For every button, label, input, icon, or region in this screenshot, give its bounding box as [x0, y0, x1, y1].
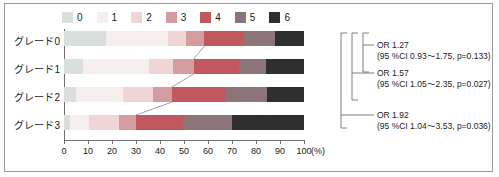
legend-item: 1 — [97, 12, 118, 23]
bar-segment — [149, 59, 173, 74]
legend-swatch-icon — [269, 12, 280, 23]
bar-segment — [194, 59, 240, 74]
bar-segment — [267, 87, 304, 102]
odds-ratio-annotation: OR 1.92(95 %CI 1.04〜3.53, p=0.036) — [377, 110, 491, 132]
x-axis-tick-label: 30 — [131, 146, 141, 156]
x-axis-tick-label: 100 — [296, 146, 311, 156]
x-axis-tick-label: 20 — [107, 146, 117, 156]
x-axis-tick-label: 70 — [227, 146, 237, 156]
x-axis-tick — [136, 141, 137, 144]
confidence-interval-value: (95 %CI 0.93〜1.75, p=0.133) — [377, 51, 491, 62]
legend-item: 0 — [62, 12, 83, 23]
bar-segment — [70, 115, 89, 130]
legend-swatch-icon — [131, 12, 142, 23]
category-label: グレード1 — [2, 61, 60, 76]
odds-ratio-value: OR 1.57 — [377, 68, 491, 79]
bar-segment — [76, 87, 123, 102]
bar-segment — [64, 87, 76, 102]
bar-segment — [173, 59, 193, 74]
legend-item: 6 — [269, 12, 290, 23]
category-label: グレード2 — [2, 89, 60, 104]
bar-segment — [232, 115, 304, 130]
legend-item: 5 — [235, 12, 256, 23]
bar-segment — [64, 31, 106, 46]
legend-item: 3 — [166, 12, 187, 23]
bar-segment — [275, 31, 304, 46]
stacked-bar-chart: 0123456 0102030405060708090100 (%) グレード0… — [0, 0, 499, 177]
x-axis-tick — [304, 141, 305, 144]
bar-segment — [239, 59, 265, 74]
x-axis-tick-label: 80 — [251, 146, 261, 156]
bar-segment — [204, 31, 244, 46]
odds-ratio-value: OR 1.92 — [377, 110, 491, 121]
x-axis-tick-label: 0 — [61, 146, 66, 156]
legend-swatch-icon — [97, 12, 108, 23]
legend-swatch-icon — [235, 12, 246, 23]
bar-segment — [64, 59, 83, 74]
bar-segment — [168, 31, 186, 46]
legend-swatch-icon — [62, 12, 73, 23]
x-axis-tick — [184, 141, 185, 144]
legend-label: 3 — [181, 12, 187, 23]
bar-segment — [186, 31, 204, 46]
legend-label: 5 — [250, 12, 256, 23]
odds-ratio-value: OR 1.27 — [377, 40, 491, 51]
bar-segment — [123, 87, 153, 102]
legend-swatch-icon — [166, 12, 177, 23]
bar-segment — [244, 31, 275, 46]
bar-segment — [172, 87, 226, 102]
legend-item: 2 — [131, 12, 152, 23]
bar-segment — [226, 87, 267, 102]
legend-label: 1 — [112, 12, 118, 23]
bar-segment — [89, 115, 119, 130]
x-axis-tick — [232, 141, 233, 144]
x-axis-tick-label: 40 — [155, 146, 165, 156]
bar-segment — [183, 115, 232, 130]
legend-swatch-icon — [200, 12, 211, 23]
x-axis-tick — [280, 141, 281, 144]
bar-segment — [106, 31, 168, 46]
x-axis-tick-label: 90 — [275, 146, 285, 156]
odds-ratio-annotation: OR 1.57(95 %CI 1.05〜2.35, p=0.027) — [377, 68, 491, 90]
x-axis-tick-label: 10 — [83, 146, 93, 156]
legend-label: 2 — [146, 12, 152, 23]
x-axis-tick-label: 50 — [179, 146, 189, 156]
legend-item: 4 — [200, 12, 221, 23]
confidence-interval-value: (95 %CI 1.05〜2.35, p=0.027) — [377, 79, 491, 90]
x-axis-unit-label: (%) — [311, 146, 325, 156]
odds-ratio-annotation: OR 1.27(95 %CI 0.93〜1.75, p=0.133) — [377, 40, 491, 62]
bar-segment — [119, 115, 136, 130]
bar-segment — [153, 87, 172, 102]
chart-legend: 0123456 — [62, 10, 304, 24]
x-axis-tick-label: 60 — [203, 146, 213, 156]
x-axis-tick — [160, 141, 161, 144]
x-axis-tick — [64, 141, 65, 144]
category-label: グレード0 — [2, 33, 60, 48]
bar-segment — [266, 59, 304, 74]
x-axis-tick — [208, 141, 209, 144]
x-axis-tick — [88, 141, 89, 144]
legend-label: 4 — [215, 12, 221, 23]
category-label: グレード3 — [2, 117, 60, 132]
x-axis-tick — [256, 141, 257, 144]
legend-label: 0 — [77, 12, 83, 23]
x-axis-tick — [112, 141, 113, 144]
legend-label: 6 — [284, 12, 290, 23]
bar-segment — [136, 115, 183, 130]
bar-segment — [83, 59, 149, 74]
confidence-interval-value: (95 %CI 1.04〜3.53, p=0.036) — [377, 121, 491, 132]
